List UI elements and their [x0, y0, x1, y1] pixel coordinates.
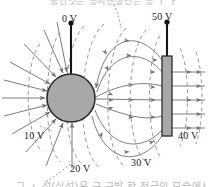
equipotential-line — [150, 36, 161, 156]
bottom-cropped-caption-value: 그 ㅅ 선(실선)은 구 근방 한 전극의 모습에서 — [16, 179, 206, 187]
field-line — [96, 41, 162, 88]
bottom-cropped-caption: 그 ㅅ 선(실선)은 구 근방 한 전극의 모습에서 — [16, 179, 206, 187]
equipotential-line — [108, 28, 126, 166]
label-equipotential-10v: 10 V — [24, 130, 44, 141]
field-line — [92, 116, 162, 157]
field-line — [57, 22, 67, 72]
leader-top — [114, 4, 121, 28]
label-sphere-potential: 0 V — [62, 13, 77, 24]
figure-page: 중간것은 등퍼텐셜면은 등 ㅣ ㅏ ㅣ ㅏ — [0, 0, 208, 187]
label-equipotential-40v: 40 V — [178, 130, 198, 141]
label-equipotential-30v: 30 V — [131, 157, 151, 168]
field-line — [4, 80, 47, 91]
electric-field-diagram — [0, 0, 208, 187]
label-equipotential-20v: 20 V — [70, 163, 90, 174]
label-plate-potential: 50 V — [152, 11, 172, 22]
field-line — [96, 84, 162, 97]
sphere-conductor — [47, 74, 95, 122]
plate-conductor — [162, 56, 172, 136]
field-line — [4, 105, 47, 116]
field-line — [96, 41, 162, 88]
field-lines-group — [2, 22, 205, 168]
